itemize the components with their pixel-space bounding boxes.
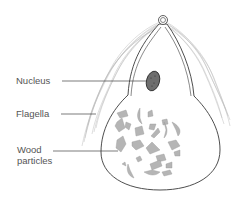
protist-diagram: Nucleus Flagella Wood particles [0,0,233,197]
protist-illustration [0,0,233,197]
apical-knob [159,16,168,25]
wood-particles-label: Wood particles [17,144,67,166]
nucleus-label: Nucleus [16,75,50,86]
flagella-label: Flagella [16,108,49,119]
